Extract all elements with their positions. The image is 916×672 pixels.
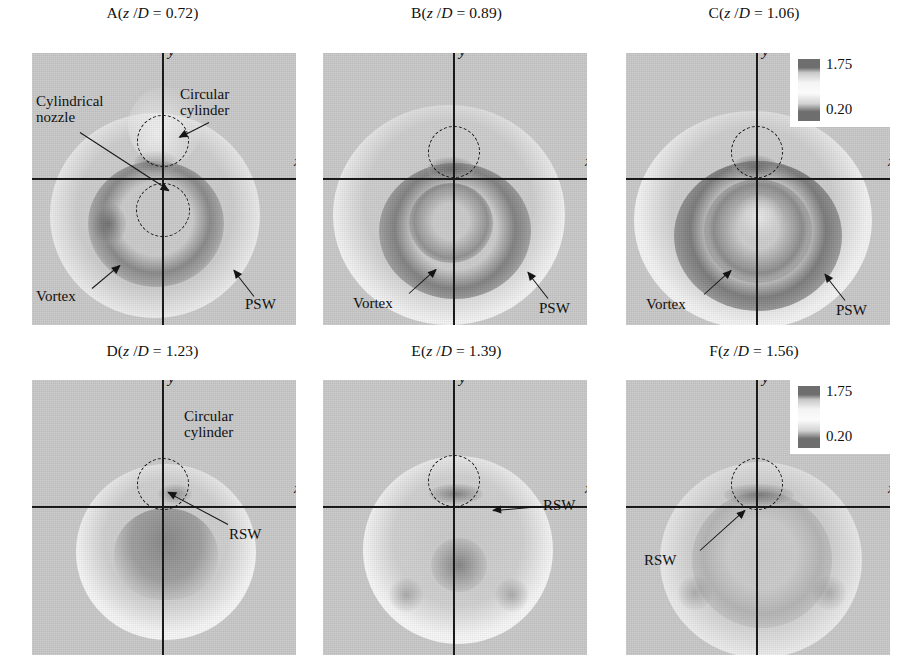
y-axis: [453, 380, 455, 655]
anno-circular-cylinder: Circular cylinder: [180, 86, 229, 118]
panel-E-title: E(z /D = 1.39): [305, 342, 608, 360]
y-axis: [756, 53, 758, 325]
panel-B-value: 0.89: [469, 4, 497, 21]
panel-A-D: D: [138, 4, 149, 21]
anno-vortex: Vortex: [36, 288, 76, 304]
y-axis: [756, 380, 758, 655]
anno-rsw: RSW: [229, 526, 262, 542]
x-axis-label: x: [585, 480, 587, 497]
panel-C: C(z /D = 1.06) x y 1.75 0.20: [608, 0, 916, 336]
circular-cylinder-marker: [731, 458, 783, 510]
image-grain: [323, 380, 587, 655]
x-axis-label: x: [294, 480, 296, 497]
panel-E: E(z /D = 1.39) x y RSW: [305, 336, 608, 672]
panel-C-title: C(z /D = 1.06): [600, 4, 908, 22]
x-axis: [32, 178, 296, 180]
x-axis: [626, 178, 890, 180]
panel-D: D(z /D = 1.23) x y Circular cylinder RSW: [0, 336, 305, 672]
panel-F-title: F(z /D = 1.56): [600, 342, 908, 360]
panel-F-letter: F: [709, 342, 718, 359]
anno-psw: PSW: [836, 302, 867, 318]
panel-C-D: D: [739, 4, 750, 21]
panel-D-letter: D: [107, 342, 118, 359]
panel-D-value: 1.23: [166, 342, 194, 359]
colorbar-gradient: [798, 386, 820, 448]
y-axis-label: y: [762, 53, 769, 60]
anno-circular-cylinder: Circular cylinder: [184, 408, 233, 440]
panel-F-value: 1.56: [766, 342, 794, 359]
anno-vortex: Vortex: [646, 296, 686, 312]
panel-C-letter: C: [708, 4, 718, 21]
colorbar-min-label: 0.20: [826, 428, 852, 445]
figure-root: A(z /D = 0.72) x y: [0, 0, 916, 672]
panel-B-flowfield: [323, 53, 587, 325]
panel-E-letter: E: [411, 342, 421, 359]
colorbar-max-label: 1.75: [826, 56, 852, 73]
panel-E-flowfield: [323, 380, 587, 655]
circular-cylinder-marker: [137, 458, 189, 510]
panel-A-title: A(z /D = 0.72): [0, 4, 305, 22]
panel-F: F(z /D = 1.56) x y 1.75 0.20: [608, 336, 916, 672]
y-axis: [162, 380, 164, 655]
anno-psw: PSW: [539, 300, 570, 316]
y-axis-label: y: [762, 380, 769, 387]
colorbar-C: 1.75 0.20: [790, 53, 890, 127]
panel-D-flowfield: [32, 380, 296, 655]
circular-cylinder-marker: [731, 126, 783, 178]
y-axis-label: y: [459, 53, 466, 60]
circular-cylinder-marker: [428, 126, 480, 178]
panel-B-title: B(z /D = 0.89): [305, 4, 608, 22]
panel-D-title: D(z /D = 1.23): [0, 342, 305, 360]
panel-C-image: x y 1.75 0.20: [626, 53, 890, 325]
panel-B-letter: B: [411, 4, 421, 21]
panel-F-image: x y 1.75 0.20: [626, 380, 890, 655]
anno-rsw: RSW: [644, 552, 677, 568]
colorbar-min-label: 0.20: [826, 101, 852, 118]
colorbar-gradient: [798, 59, 820, 121]
panel-E-D: D: [441, 342, 452, 359]
circular-cylinder-marker: [428, 455, 480, 507]
panel-A: A(z /D = 0.72) x y: [0, 0, 305, 336]
y-axis-label: y: [459, 380, 466, 387]
anno-rsw: RSW: [543, 497, 576, 513]
panel-E-value: 1.39: [469, 342, 497, 359]
panel-E-image: x y: [323, 380, 587, 655]
y-axis-label: y: [168, 53, 175, 60]
panel-A-value: 0.72: [166, 4, 194, 21]
x-axis-label: x: [888, 153, 890, 170]
y-axis: [453, 53, 455, 325]
panel-B-D: D: [441, 4, 452, 21]
colorbar-F: 1.75 0.20: [790, 380, 890, 454]
panel-D-D: D: [138, 342, 149, 359]
x-axis-label: x: [294, 153, 296, 170]
x-axis-label: x: [888, 480, 890, 497]
anno-vortex: Vortex: [353, 295, 393, 311]
anno-cylindrical-nozzle: Cylindrical nozzle: [36, 93, 104, 125]
anno-psw: PSW: [245, 296, 276, 312]
panel-B-image: x y: [323, 53, 587, 325]
panel-A-letter: A: [107, 4, 118, 21]
y-axis-label: y: [168, 380, 175, 387]
image-grain: [323, 53, 587, 325]
x-axis: [323, 178, 587, 180]
panel-D-image: x y Circular cylinder: [32, 380, 296, 655]
colorbar-max-label: 1.75: [826, 383, 852, 400]
panel-F-D: D: [738, 342, 749, 359]
panel-C-value: 1.06: [767, 4, 795, 21]
x-axis-label: x: [585, 153, 587, 170]
panel-B: B(z /D = 0.89) x y Vortex PSW: [305, 0, 608, 336]
image-grain: [32, 380, 296, 655]
